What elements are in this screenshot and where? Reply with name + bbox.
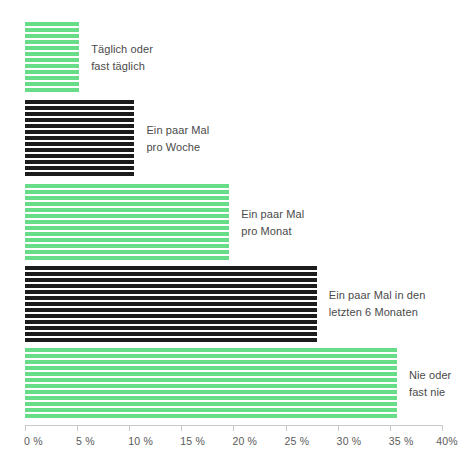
bar-4[interactable]	[25, 266, 317, 342]
bar-label-3: Ein paar Mal pro Monat	[241, 206, 304, 240]
bar-chart: Täglich oder fast täglichEin paar Mal pr…	[0, 0, 471, 471]
x-axis-tick-label: 40%	[436, 435, 458, 447]
x-axis-tick	[338, 425, 339, 431]
x-axis-tick	[390, 425, 391, 431]
bar-label-5: Nie oder fast nie	[409, 367, 451, 401]
bar-3[interactable]	[25, 184, 229, 262]
x-axis-tick-label: 30 %	[337, 435, 362, 447]
x-axis: 0 %5 %10 %15 %20 %25 %30 %35 %40%	[0, 425, 471, 471]
bar-label-2: Ein paar Mal pro Woche	[146, 122, 209, 156]
x-axis-tick	[129, 425, 130, 431]
x-axis-tick	[442, 425, 443, 431]
x-axis-tick	[286, 425, 287, 431]
bar-row: Ein paar Mal pro Woche	[0, 100, 471, 178]
bar-row: Nie oder fast nie	[0, 348, 471, 420]
bar-row: Ein paar Mal in den letzten 6 Monaten	[0, 266, 471, 342]
x-axis-tick	[181, 425, 182, 431]
bar-2[interactable]	[25, 100, 134, 178]
x-axis-tick-label: 5 %	[76, 435, 95, 447]
x-axis-tick	[25, 425, 26, 431]
x-axis-tick-label: 20 %	[232, 435, 257, 447]
bar-row: Ein paar Mal pro Monat	[0, 184, 471, 262]
x-axis-tick-label: 0 %	[24, 435, 43, 447]
x-axis-tick-label: 35 %	[389, 435, 414, 447]
bar-1[interactable]	[25, 22, 79, 94]
bar-label-1: Täglich oder fast täglich	[91, 41, 153, 75]
bar-row: Täglich oder fast täglich	[0, 22, 471, 94]
x-axis-tick-label: 10 %	[128, 435, 153, 447]
bar-label-4: Ein paar Mal in den letzten 6 Monaten	[329, 287, 426, 321]
bar-5[interactable]	[25, 348, 397, 420]
x-axis-tick	[77, 425, 78, 431]
x-axis-tick-label: 15 %	[180, 435, 205, 447]
plot-area: Täglich oder fast täglichEin paar Mal pr…	[0, 0, 471, 425]
x-axis-tick	[233, 425, 234, 431]
x-axis-tick-label: 25 %	[285, 435, 310, 447]
